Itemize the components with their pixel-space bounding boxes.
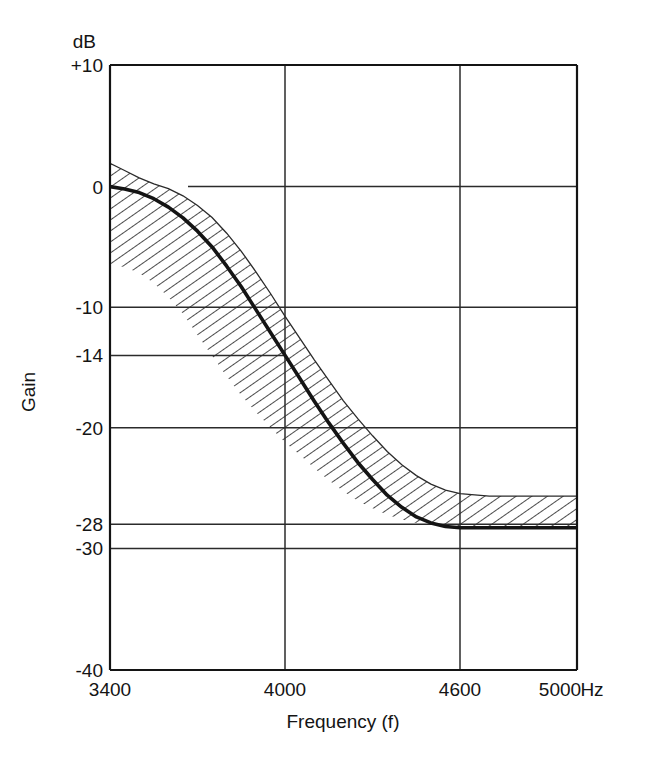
y-tick-label-0: 0: [92, 177, 103, 198]
y-tick-label-minus14: -14: [76, 345, 104, 366]
y-axis-title: Gain: [18, 372, 39, 412]
x-tick-label-3400: 3400: [89, 679, 131, 700]
x-tick-label-5000: 5000: [539, 679, 581, 700]
y-tick-label-minus28: -28: [76, 514, 103, 535]
y-axis-unit-label: dB: [73, 31, 96, 52]
filter-attenuation-chart: dB +10 0 -10 -14 -20 -28 -30 -40 3400 40…: [0, 0, 647, 761]
x-axis-title: Frequency (f): [287, 711, 400, 732]
x-tick-label-4000: 4000: [264, 679, 306, 700]
y-tick-label-minus30: -30: [76, 538, 103, 559]
x-axis-title-group: Frequency (f): [287, 711, 400, 732]
x-axis-unit-label: Hz: [580, 679, 603, 700]
y-axis-unit-group: dB: [73, 31, 96, 52]
y-tick-label-minus20: -20: [76, 418, 103, 439]
y-tick-label-minus40: -40: [76, 660, 103, 681]
y-tick-label-plus10: +10: [71, 55, 103, 76]
y-axis-title-group: Gain: [18, 372, 39, 412]
x-tick-label-4600: 4600: [439, 679, 481, 700]
y-tick-label-minus10: -10: [76, 297, 103, 318]
